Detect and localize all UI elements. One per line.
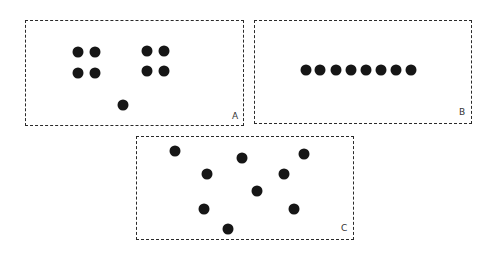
panel-label: A <box>232 112 238 121</box>
dot-icon <box>202 169 213 180</box>
dot-icon <box>90 47 101 58</box>
dot-icon <box>301 65 312 76</box>
dot-icon <box>315 65 326 76</box>
dot-icon <box>391 65 402 76</box>
dot-icon <box>331 65 342 76</box>
dot-icon <box>90 68 101 79</box>
dot-icon <box>252 186 263 197</box>
dot-icon <box>237 153 248 164</box>
dot-icon <box>118 100 129 111</box>
dot-icon <box>361 65 372 76</box>
panel-a-box <box>25 20 244 126</box>
dot-icon <box>159 46 170 57</box>
dot-icon <box>406 65 417 76</box>
dot-icon <box>142 66 153 77</box>
dot-icon <box>73 47 84 58</box>
panel-label: C <box>341 224 347 233</box>
panel-label: B <box>459 108 465 117</box>
dot-icon <box>376 65 387 76</box>
dot-icon <box>73 68 84 79</box>
dot-icon <box>223 224 234 235</box>
dot-icon <box>170 146 181 157</box>
dot-icon <box>299 149 310 160</box>
dot-icon <box>289 204 300 215</box>
dot-icon <box>159 66 170 77</box>
dot-icon <box>199 204 210 215</box>
dot-icon <box>346 65 357 76</box>
dot-icon <box>279 169 290 180</box>
dot-icon <box>142 46 153 57</box>
